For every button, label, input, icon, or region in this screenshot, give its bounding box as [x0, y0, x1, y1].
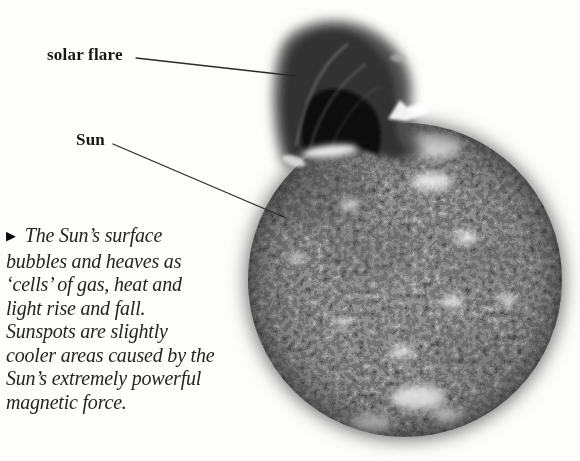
caption-arrow-icon: ▶ [6, 224, 16, 248]
caption-line: ‘cells’ of gas, heat and [6, 273, 251, 297]
solar-flare-shape [274, 21, 431, 170]
label-sun: Sun [76, 130, 105, 150]
caption-text: The Sun’s surface [25, 224, 162, 246]
caption-line: bubbles and heaves as [6, 250, 251, 274]
caption-line: magnetic force. [6, 391, 251, 415]
sun-limb-shading [248, 123, 562, 437]
figure-caption: ▶The Sun’s surface bubbles and heaves as… [6, 224, 251, 414]
caption-line: Sun’s extremely powerful [6, 367, 251, 391]
label-solar-flare: solar flare [47, 45, 123, 65]
sun-pointer-line [113, 144, 286, 218]
caption-line: ▶The Sun’s surface [6, 224, 251, 250]
caption-line: Sunspots are slightly [6, 320, 251, 344]
book-page: solar flare Sun ▶The Sun’s surface bubbl… [0, 0, 580, 461]
caption-line: cooler areas caused by the [6, 344, 251, 368]
caption-line: light rise and fall. [6, 297, 251, 321]
solar-flare-pointer-line [136, 58, 296, 76]
